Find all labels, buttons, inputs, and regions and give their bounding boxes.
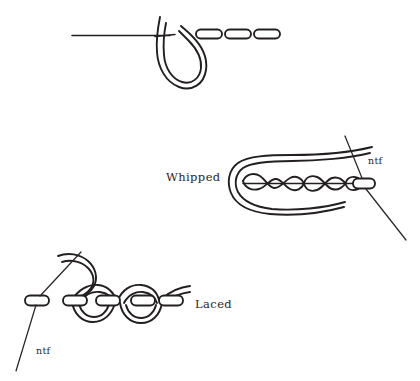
panel-running-stitch xyxy=(72,17,280,88)
whipped-needle-line-lower xyxy=(366,189,406,240)
laced-stitch-dash-4 xyxy=(131,296,155,306)
label-ntf-laced: ntf xyxy=(36,345,50,356)
laced-stitch-dash-1 xyxy=(25,296,49,306)
laced-needle-line-upper xyxy=(40,252,81,296)
label-ntf-whipped: ntf xyxy=(368,155,382,166)
label-laced: Laced xyxy=(195,297,232,311)
stitch-dash-3 xyxy=(254,30,280,39)
laced-needle-line-lower xyxy=(16,305,36,371)
stitch-diagram-svg xyxy=(0,0,420,381)
laced-arc-lower-2b xyxy=(126,305,156,318)
stitch-dash-1 xyxy=(196,30,222,39)
panel-whipped xyxy=(229,136,406,240)
laced-stitch-dash-5 xyxy=(159,296,183,306)
laced-stitch-dash-3 xyxy=(96,296,120,306)
label-whipped: Whipped xyxy=(166,170,221,184)
stitch-dash-2 xyxy=(225,30,251,39)
laced-stitch-dash-2 xyxy=(63,296,87,306)
whipped-stitch-dash xyxy=(353,179,375,189)
diagram-canvas: Whipped Laced ntf ntf xyxy=(0,0,420,381)
